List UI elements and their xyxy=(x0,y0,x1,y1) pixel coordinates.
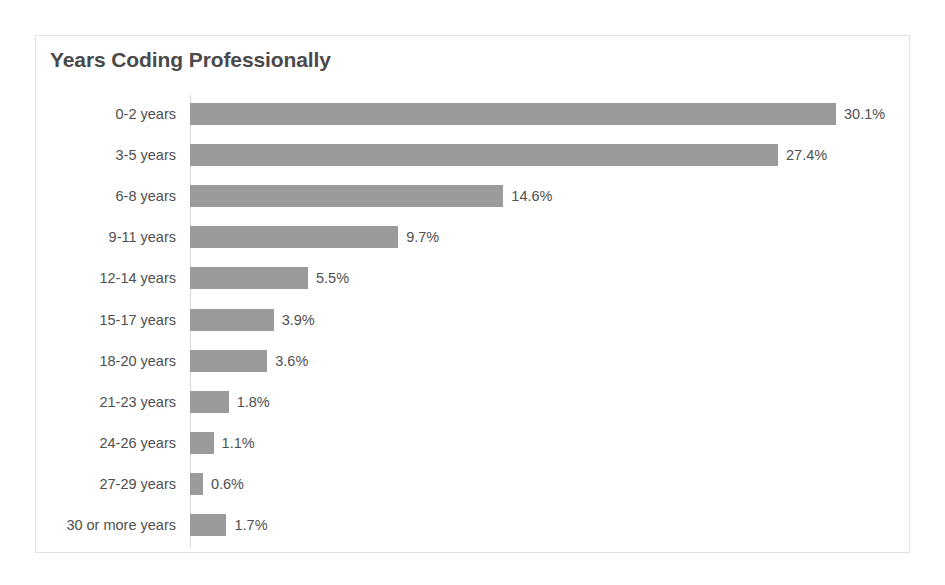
bar-row: 18-20 years3.6% xyxy=(36,340,909,381)
bar[interactable] xyxy=(190,185,503,207)
category-label: 15-17 years xyxy=(36,312,190,328)
bar[interactable] xyxy=(190,226,398,248)
bar-track: 30.1% xyxy=(190,93,909,134)
bar-track: 5.5% xyxy=(190,258,909,299)
bar-value-label: 1.8% xyxy=(229,394,270,410)
bar-track: 3.6% xyxy=(190,340,909,381)
bar-value-label: 9.7% xyxy=(398,229,439,245)
plot-area: 0-2 years30.1%3-5 years27.4%6-8 years14.… xyxy=(36,93,909,544)
bar-value-label: 27.4% xyxy=(778,147,827,163)
bar-row: 21-23 years1.8% xyxy=(36,381,909,422)
bar[interactable] xyxy=(190,473,203,495)
bar[interactable] xyxy=(190,514,226,536)
category-label: 9-11 years xyxy=(36,229,190,245)
category-label: 27-29 years xyxy=(36,476,190,492)
category-label: 21-23 years xyxy=(36,394,190,410)
bar-value-label: 1.1% xyxy=(214,435,255,451)
bar[interactable] xyxy=(190,309,274,331)
bar-track: 1.8% xyxy=(190,381,909,422)
bar-row: 0-2 years30.1% xyxy=(36,93,909,134)
category-label: 6-8 years xyxy=(36,188,190,204)
bar-row: 27-29 years0.6% xyxy=(36,464,909,505)
bar-value-label: 14.6% xyxy=(503,188,552,204)
bar-row: 3-5 years27.4% xyxy=(36,134,909,175)
category-label: 24-26 years xyxy=(36,435,190,451)
bar-value-label: 3.9% xyxy=(274,312,315,328)
bar-track: 0.6% xyxy=(190,464,909,505)
bar-row: 15-17 years3.9% xyxy=(36,299,909,340)
bar-row: 6-8 years14.6% xyxy=(36,175,909,216)
bar-track: 1.1% xyxy=(190,423,909,464)
bar-value-label: 3.6% xyxy=(267,353,308,369)
category-label: 18-20 years xyxy=(36,353,190,369)
bar-row: 30 or more years1.7% xyxy=(36,505,909,546)
bar[interactable] xyxy=(190,432,214,454)
bar-value-label: 30.1% xyxy=(836,106,885,122)
bar-row: 12-14 years5.5% xyxy=(36,258,909,299)
category-label: 3-5 years xyxy=(36,147,190,163)
bar-row: 9-11 years9.7% xyxy=(36,217,909,258)
bar-track: 9.7% xyxy=(190,217,909,258)
category-label: 12-14 years xyxy=(36,270,190,286)
bar-value-label: 5.5% xyxy=(308,270,349,286)
bar-row: 24-26 years1.1% xyxy=(36,423,909,464)
category-label: 30 or more years xyxy=(36,517,190,533)
bar-track: 3.9% xyxy=(190,299,909,340)
category-label: 0-2 years xyxy=(36,106,190,122)
bar-track: 27.4% xyxy=(190,134,909,175)
bar[interactable] xyxy=(190,267,308,289)
chart-title: Years Coding Professionally xyxy=(50,48,331,72)
bar[interactable] xyxy=(190,144,778,166)
bar[interactable] xyxy=(190,350,267,372)
chart-card: Years Coding Professionally 0-2 years30.… xyxy=(35,35,910,553)
bar[interactable] xyxy=(190,391,229,413)
bar-track: 14.6% xyxy=(190,175,909,216)
bar-track: 1.7% xyxy=(190,505,909,546)
bar-value-label: 1.7% xyxy=(226,517,267,533)
bar-value-label: 0.6% xyxy=(203,476,244,492)
bar[interactable] xyxy=(190,103,836,125)
bar-series: 0-2 years30.1%3-5 years27.4%6-8 years14.… xyxy=(36,93,909,546)
